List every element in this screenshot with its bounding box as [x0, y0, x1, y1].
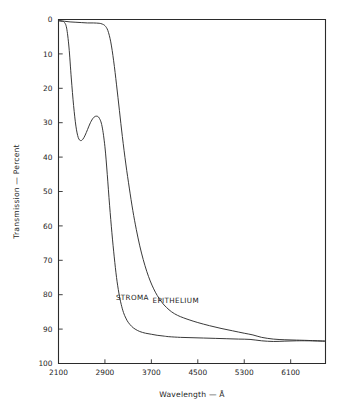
y-tick-label: 40: [43, 153, 53, 162]
x-tick-label: 4500: [188, 368, 207, 377]
y-axis-tick-labels: 0102030405060708090100: [38, 15, 52, 368]
series-label-epithelium: EPITHELIUM: [153, 296, 199, 305]
y-tick-label: 60: [43, 222, 53, 231]
y-tick-label: 90: [43, 325, 53, 334]
y-tick-label: 80: [43, 290, 53, 299]
x-tick-label: 2100: [49, 368, 68, 377]
x-tick-label: 2900: [96, 368, 115, 377]
y-tick-label: 10: [43, 50, 53, 59]
y-axis-title: Transmission — Percent: [12, 144, 21, 239]
chart-canvas: 0102030405060708090100 21002900370045005…: [0, 0, 342, 417]
data-curves: [59, 21, 326, 342]
y-tick-label: 30: [43, 118, 53, 127]
transmission-spectrum-figure: 0102030405060708090100 21002900370045005…: [0, 0, 342, 417]
x-axis-tick-labels: 210029003700450053006100: [49, 368, 300, 377]
y-tick-label: 70: [43, 256, 53, 265]
x-tick-label: 6100: [281, 368, 300, 377]
tick-marks: [59, 20, 291, 364]
series-inline-labels: STROMAEPITHELIUM: [116, 293, 199, 305]
series-label-stroma: STROMA: [116, 293, 149, 302]
curve-epithelium: [59, 21, 326, 342]
y-tick-label: 100: [38, 359, 52, 368]
x-axis-title: Wavelength — Å: [159, 389, 225, 399]
axis-frame: [59, 20, 326, 364]
curve-stroma: [59, 21, 326, 342]
x-tick-label: 3700: [142, 368, 161, 377]
y-tick-label: 0: [48, 15, 53, 24]
y-tick-label: 20: [43, 84, 53, 93]
x-tick-label: 5300: [235, 368, 254, 377]
y-tick-label: 50: [43, 187, 53, 196]
